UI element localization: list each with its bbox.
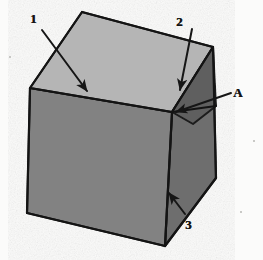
scan-speck — [253, 140, 255, 142]
callout-label-1: 1 — [30, 12, 37, 25]
callout-label-a: A — [233, 86, 242, 99]
box-diagram-svg — [0, 0, 263, 260]
scan-speck — [9, 56, 11, 58]
figure-container: 1 2 A 3 — [0, 0, 263, 260]
callout-label-2: 2 — [176, 15, 183, 28]
scan-speck — [240, 211, 242, 213]
callout-label-3: 3 — [185, 218, 192, 231]
